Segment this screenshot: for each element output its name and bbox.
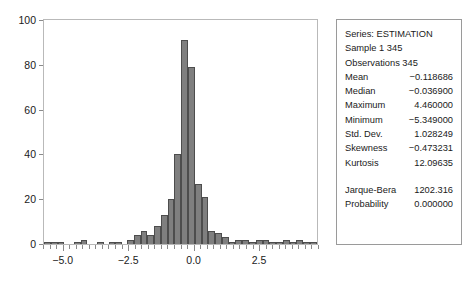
x-axis-minor-tick <box>220 245 221 249</box>
x-axis-minor-tick <box>69 245 70 249</box>
x-axis-minor-tick <box>95 245 96 249</box>
y-axis-tick-label: 100 <box>18 12 36 28</box>
statistic-row: Median−0.036900 <box>345 84 453 98</box>
histogram-bar <box>276 242 283 244</box>
x-axis-minor-tick <box>298 245 299 249</box>
x-axis-tick-mark <box>259 245 260 251</box>
x-axis-minor-tick <box>292 245 293 249</box>
x-axis-minor-tick <box>279 245 280 249</box>
x-axis-minor-tick <box>305 245 306 249</box>
histogram-bar <box>44 242 51 244</box>
histogram-bar <box>263 240 270 244</box>
test-statistic-row-value: 1202.316 <box>414 183 453 197</box>
x-axis-tick-label: 2.5 <box>252 253 267 267</box>
histogram-bar <box>195 184 202 244</box>
statistic-row-key: Median <box>345 84 376 98</box>
x-axis-minor-tick <box>43 245 44 249</box>
x-axis-minor-tick <box>207 245 208 249</box>
histogram-bar <box>141 231 148 244</box>
statistic-row-value: −0.473231 <box>409 141 453 155</box>
statistic-row-value: −0.036900 <box>409 84 453 98</box>
statistic-row-key: Maximum <box>345 98 385 112</box>
histogram-bar <box>296 240 303 244</box>
x-axis-minor-tick <box>181 245 182 249</box>
x-axis-minor-tick <box>239 245 240 249</box>
statistic-row-key: Skewness <box>345 141 387 155</box>
x-axis-tick-label: −2.5 <box>118 253 139 267</box>
x-axis-minor-tick <box>311 245 312 249</box>
histogram-bar <box>134 235 141 244</box>
statistics-panel: Series: ESTIMATION Sample 1 345 Observat… <box>336 19 462 245</box>
histogram-bars <box>44 20 317 244</box>
x-axis-minor-tick <box>50 245 51 249</box>
x-axis-minor-tick <box>102 245 103 249</box>
histogram-bar <box>51 242 58 244</box>
stats-spacer <box>345 170 453 183</box>
y-axis: 020406080100 <box>0 19 43 245</box>
histogram-figure: 020406080100 −5.0−2.50.02.5 Series: ESTI… <box>0 0 470 285</box>
test-statistic-row-key: Jarque-Bera <box>345 183 396 197</box>
x-axis-minor-tick <box>266 245 267 249</box>
histogram-bar <box>127 240 134 244</box>
statistic-row-key: Std. Dev. <box>345 127 383 141</box>
x-axis-minor-tick <box>272 245 273 249</box>
histogram-bar <box>81 240 88 244</box>
test-statistic-row-key: Probability <box>345 197 388 211</box>
histogram-bar <box>222 237 229 244</box>
statistic-row-value: 4.460000 <box>414 98 453 112</box>
x-axis-minor-tick <box>148 245 149 249</box>
statistic-row-key: Kurtosis <box>345 156 379 170</box>
x-axis-minor-tick <box>161 245 162 249</box>
x-axis-minor-tick <box>318 245 319 249</box>
x-axis-minor-tick <box>174 245 175 249</box>
x-axis-minor-tick <box>213 245 214 249</box>
histogram-bar <box>188 67 195 244</box>
statistic-row: Minimum−5.349000 <box>345 113 453 127</box>
x-axis-minor-tick <box>233 245 234 249</box>
x-axis-minor-tick <box>167 245 168 249</box>
x-axis-minor-tick <box>89 245 90 249</box>
statistic-row-key: Mean <box>345 70 368 84</box>
x-axis-minor-tick <box>226 245 227 249</box>
histogram-bar <box>202 197 209 244</box>
x-axis-minor-tick <box>141 245 142 249</box>
x-axis-tick-label: 0.0 <box>186 253 201 267</box>
x-axis-tick-mark <box>63 245 64 251</box>
sample-label: Sample 1 345 <box>345 41 453 55</box>
test-statistic-row: Probability0.000000 <box>345 197 453 211</box>
histogram-bar <box>74 242 81 244</box>
y-axis-tick-label: 80 <box>24 57 36 73</box>
histogram-bar <box>181 40 188 244</box>
statistic-row: Std. Dev.1.028249 <box>345 127 453 141</box>
histogram-bar <box>310 242 317 244</box>
histogram-bar <box>147 235 154 244</box>
x-axis: −5.0−2.50.02.5 <box>43 245 318 275</box>
x-axis-tick-label: −5.0 <box>52 253 73 267</box>
histogram-bar <box>269 242 276 244</box>
statistic-row: Maximum4.460000 <box>345 98 453 112</box>
x-axis-minor-tick <box>115 245 116 249</box>
x-axis-minor-tick <box>246 245 247 249</box>
histogram-bar <box>215 233 222 244</box>
statistic-row: Skewness−0.473231 <box>345 141 453 155</box>
y-axis-tick-label: 0 <box>30 236 36 252</box>
x-axis-minor-tick <box>154 245 155 249</box>
statistic-rows: Mean−0.118686Median−0.036900Maximum4.460… <box>345 70 453 170</box>
statistic-row-value: 12.09635 <box>414 156 453 170</box>
histogram-bar <box>161 215 168 244</box>
x-axis-minor-tick <box>108 245 109 249</box>
histogram-bar <box>242 240 249 244</box>
test-statistic-row-value: 0.000000 <box>414 197 453 211</box>
histogram-bar <box>235 240 242 244</box>
histogram-bar <box>58 242 65 244</box>
x-axis-tick-mark <box>128 245 129 251</box>
plot-panel <box>43 19 318 245</box>
histogram-bar <box>174 154 181 244</box>
y-axis-tick-label: 40 <box>24 146 36 162</box>
histogram-bar <box>229 242 236 244</box>
histogram-bar <box>290 242 297 244</box>
test-statistic-row: Jarque-Bera1202.316 <box>345 183 453 197</box>
histogram-bar <box>109 242 116 244</box>
x-axis-minor-tick <box>285 245 286 249</box>
test-statistic-rows: Jarque-Bera1202.316Probability0.000000 <box>345 183 453 212</box>
